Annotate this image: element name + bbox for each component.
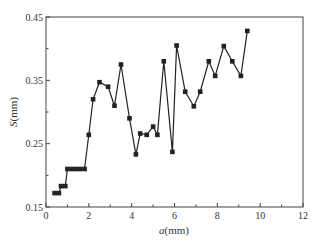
data-point-marker xyxy=(134,152,139,157)
data-point-marker xyxy=(87,133,92,138)
data-point-marker xyxy=(63,184,68,189)
x-tick-label: 4 xyxy=(129,210,134,221)
data-point-marker xyxy=(91,97,96,102)
y-tick-label: 0.35 xyxy=(26,75,44,86)
data-point-marker xyxy=(52,191,57,196)
data-point-marker xyxy=(174,43,179,48)
data-point-marker xyxy=(213,74,218,79)
x-tick-label: 2 xyxy=(86,210,91,221)
data-point-marker xyxy=(112,103,117,108)
y-tick-label: 0.25 xyxy=(26,138,44,149)
data-point-marker xyxy=(106,84,111,89)
data-point-marker xyxy=(230,59,235,64)
x-axis-label: a(mm) xyxy=(159,224,189,237)
x-tick-label: 12 xyxy=(298,210,308,221)
data-point-marker xyxy=(57,191,62,196)
data-point-marker xyxy=(151,124,156,129)
data-point-marker xyxy=(239,74,244,79)
data-point-marker xyxy=(222,44,227,49)
data-point-marker xyxy=(59,184,64,189)
data-point-marker xyxy=(82,167,87,172)
data-series xyxy=(52,29,249,196)
data-point-marker xyxy=(207,59,212,64)
data-point-marker xyxy=(74,167,79,172)
data-point-marker xyxy=(127,116,132,121)
axis-tick-labels: 0246810120.150.250.350.45 xyxy=(26,12,309,222)
y-tick-label: 0.15 xyxy=(26,202,44,213)
data-point-marker xyxy=(65,167,70,172)
y-axis-label: S(mm) xyxy=(7,97,20,127)
data-point-marker xyxy=(78,167,83,172)
data-point-marker xyxy=(183,89,188,94)
x-tick-label: 8 xyxy=(215,210,220,221)
data-point-marker xyxy=(69,167,74,172)
data-point-marker xyxy=(97,80,102,85)
data-point-marker xyxy=(170,150,175,155)
data-point-marker xyxy=(192,104,197,109)
data-point-marker xyxy=(245,29,250,34)
data-point-marker xyxy=(162,59,167,64)
x-tick-label: 10 xyxy=(255,210,265,221)
x-tick-label: 0 xyxy=(44,210,49,221)
line-chart: 0246810120.150.250.350.45 a(mm) S(mm) xyxy=(0,0,320,241)
data-point-marker xyxy=(198,89,203,94)
data-point-marker xyxy=(119,62,124,67)
data-point-marker xyxy=(138,131,143,136)
y-tick-label: 0.45 xyxy=(26,12,44,23)
data-point-marker xyxy=(155,133,160,138)
x-tick-label: 6 xyxy=(172,210,177,221)
data-point-marker xyxy=(144,133,149,138)
